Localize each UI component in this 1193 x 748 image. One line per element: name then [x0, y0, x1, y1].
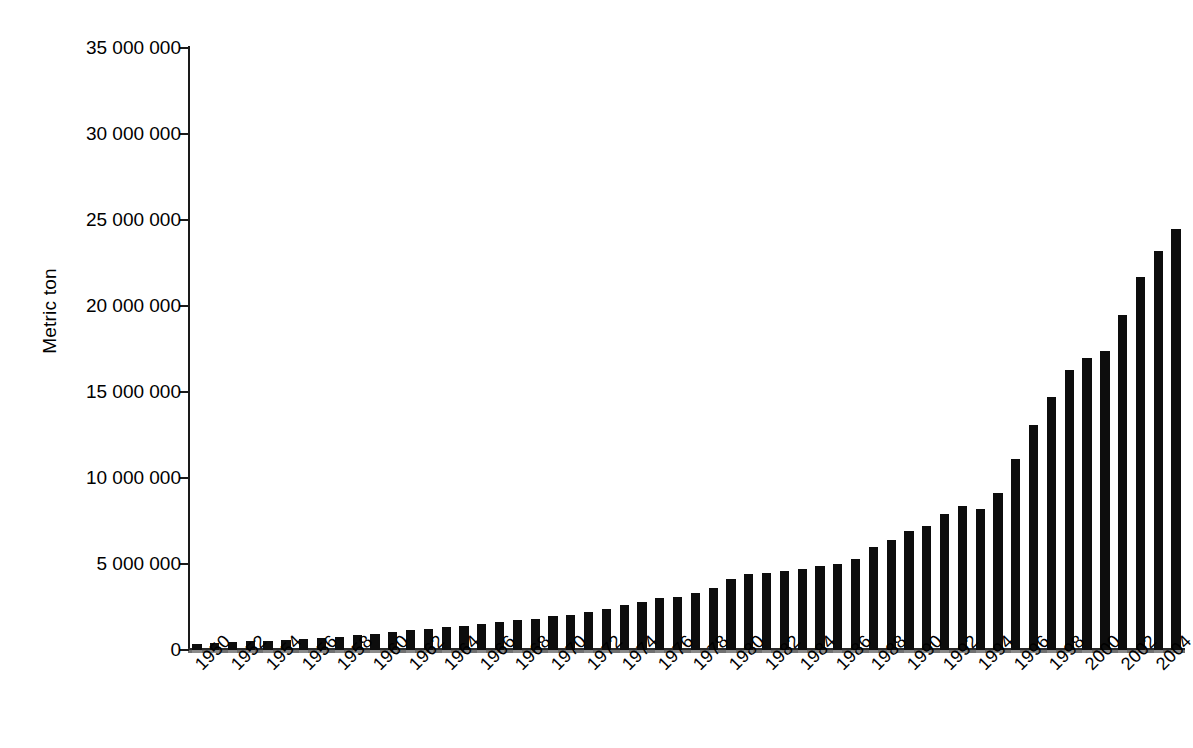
- x-axis-ticks: 1950195219541956195819601962196419661968…: [188, 654, 1185, 744]
- bar: [1136, 277, 1145, 650]
- bar: [762, 573, 771, 650]
- bar: [940, 514, 949, 650]
- bar: [1065, 370, 1074, 650]
- y-tick-label: 5 000 000: [96, 554, 181, 573]
- bar-series: [188, 48, 1185, 650]
- y-tick-label: 0: [170, 640, 181, 659]
- bar: [993, 493, 1002, 650]
- bar: [904, 531, 913, 650]
- bar: [869, 547, 878, 650]
- y-tick-label: 35 000 000: [86, 38, 181, 57]
- bar: [798, 569, 807, 650]
- y-tick-label: 30 000 000: [86, 124, 181, 143]
- y-axis-title: Metric ton: [39, 201, 61, 421]
- y-tick-label: 20 000 000: [86, 296, 181, 315]
- bar: [1118, 315, 1127, 650]
- bar: [1047, 397, 1056, 650]
- bar: [1082, 358, 1091, 650]
- bar: [1171, 229, 1180, 650]
- bar: [976, 509, 985, 650]
- bar: [1011, 459, 1020, 650]
- bar: [958, 506, 967, 650]
- bar: [1154, 251, 1163, 650]
- y-tick-label: 15 000 000: [86, 382, 181, 401]
- bar: [1100, 351, 1109, 650]
- y-tick-label: 10 000 000: [86, 468, 181, 487]
- bar: [1029, 425, 1038, 650]
- y-tick-label: 25 000 000: [86, 210, 181, 229]
- bar: [833, 564, 842, 650]
- bar-chart: Metric ton 05 000 00010 000 00015 000 00…: [0, 0, 1193, 748]
